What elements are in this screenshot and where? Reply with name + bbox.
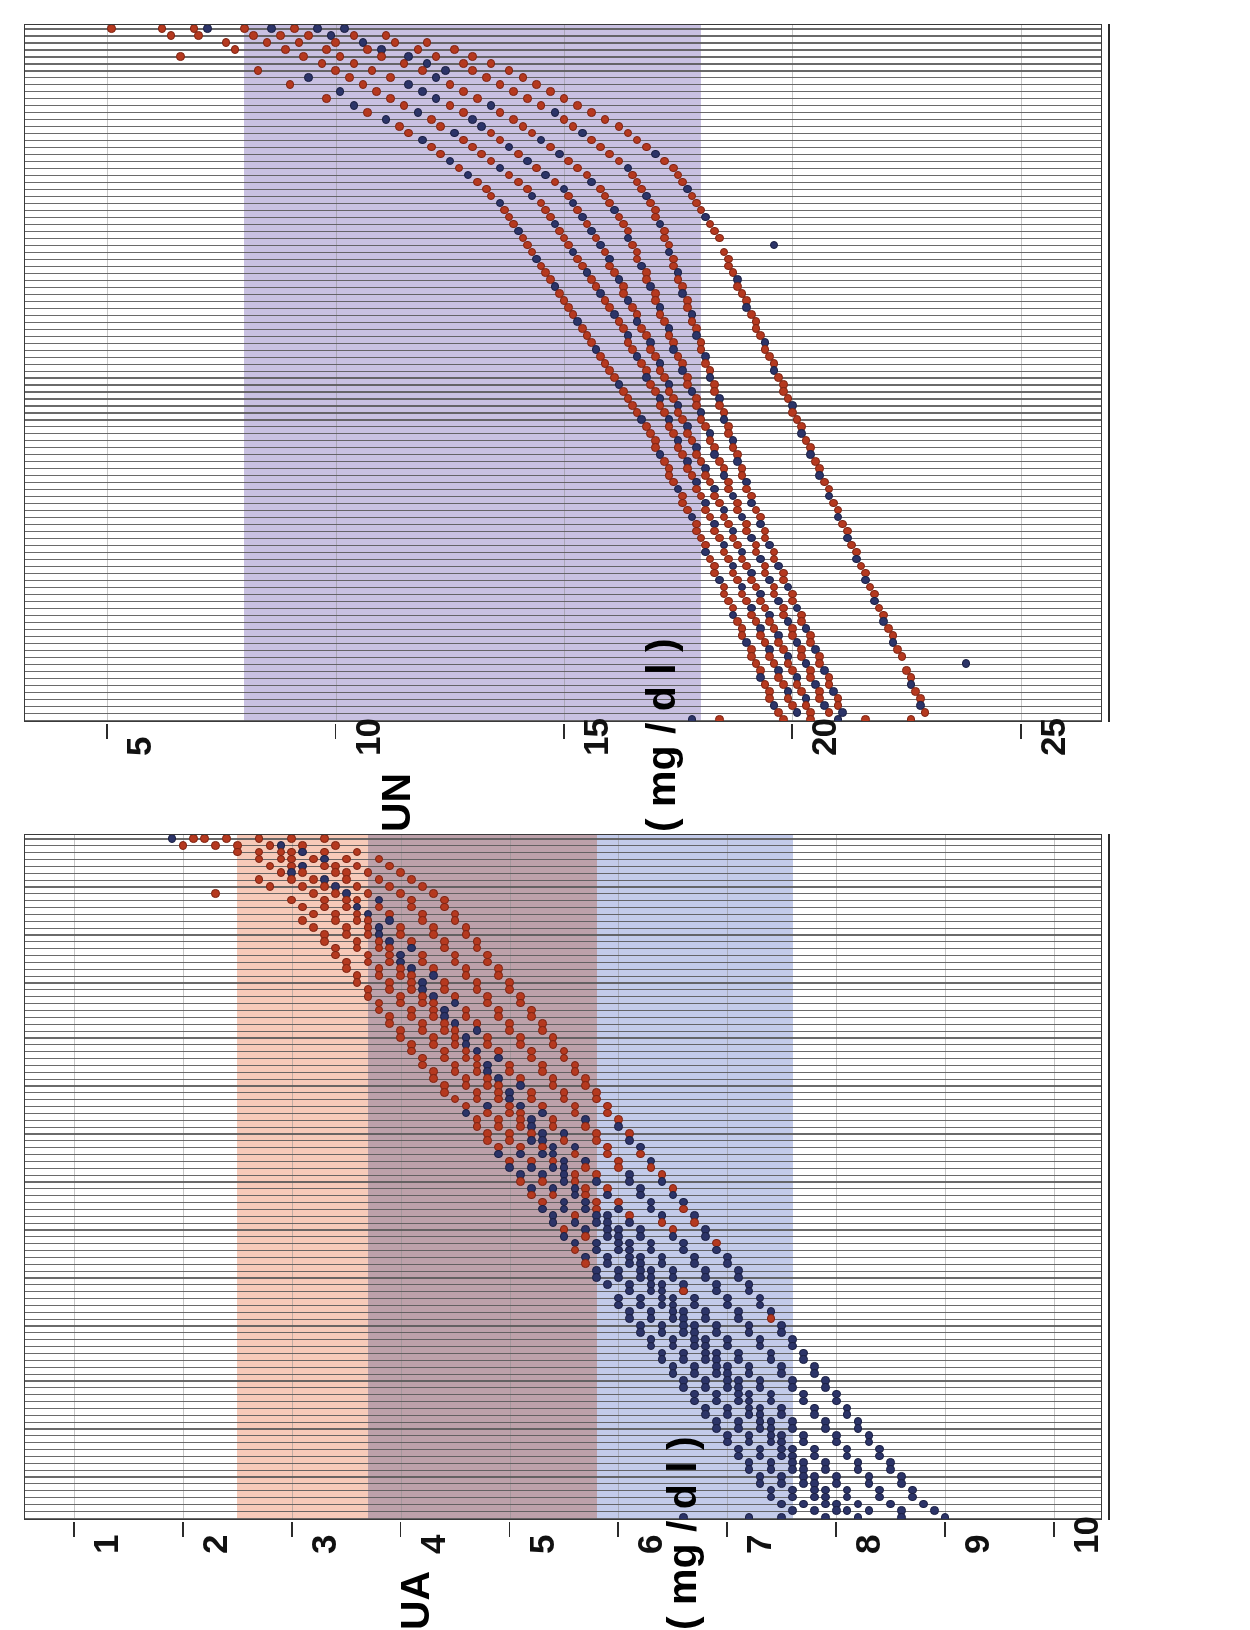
un-plot-frame: [24, 24, 1102, 722]
data-point: [331, 868, 340, 877]
data-point: [342, 930, 351, 939]
data-point: [477, 122, 486, 131]
data-point: [313, 24, 322, 33]
data-point: [359, 80, 368, 89]
ua-tick-label: 8: [848, 1536, 888, 1554]
data-point: [309, 923, 318, 932]
data-point: [462, 1054, 471, 1063]
data-point: [483, 1040, 492, 1049]
data-point: [322, 94, 331, 103]
data-point: [669, 1369, 678, 1378]
data-point: [429, 1074, 438, 1083]
data-point: [723, 1438, 732, 1447]
data-point: [345, 73, 354, 82]
data-point: [304, 31, 313, 40]
data-point: [432, 94, 441, 103]
data-point: [418, 87, 427, 96]
data-point: [854, 1465, 863, 1474]
data-point: [843, 1506, 852, 1515]
data-point: [462, 1081, 471, 1090]
data-point: [342, 875, 351, 884]
data-point: [407, 1012, 416, 1021]
data-point: [459, 87, 468, 96]
data-point: [701, 1273, 710, 1282]
data-point: [375, 944, 384, 953]
data-point: [176, 52, 185, 61]
data-point: [592, 1177, 601, 1186]
data-point: [527, 1095, 536, 1104]
data-point: [473, 1067, 482, 1076]
data-point: [799, 1479, 808, 1488]
data-point: [353, 848, 362, 857]
data-point: [528, 129, 537, 138]
data-point: [779, 715, 788, 722]
data-point: [799, 1397, 808, 1406]
data-point: [519, 73, 528, 82]
data-point: [523, 157, 532, 166]
data-point: [505, 143, 514, 152]
data-point: [255, 875, 264, 884]
data-point: [483, 1081, 492, 1090]
data-point: [734, 1355, 743, 1364]
data-point: [633, 136, 642, 145]
ua-tick-label: 5: [522, 1536, 562, 1554]
data-point: [810, 1369, 819, 1378]
data-point: [723, 1410, 732, 1419]
data-point: [396, 1033, 405, 1042]
data-point: [368, 66, 377, 75]
ua-tick-label: 7: [739, 1536, 779, 1554]
data-point: [669, 1342, 678, 1351]
data-point: [647, 1342, 656, 1351]
data-point: [669, 1273, 678, 1282]
data-point: [538, 1026, 547, 1035]
data-point: [560, 115, 569, 124]
data-point: [908, 1493, 917, 1502]
data-point: [647, 1314, 656, 1323]
data-point: [298, 882, 307, 891]
data-point: [266, 841, 275, 850]
data-point: [592, 1095, 601, 1104]
data-point: [581, 1122, 590, 1131]
data-point: [519, 122, 528, 131]
data-point: [483, 999, 492, 1008]
data-point: [407, 875, 416, 884]
data-point: [658, 1218, 667, 1227]
data-point: [340, 24, 349, 33]
data-point: [614, 1205, 623, 1214]
data-point: [777, 1513, 786, 1520]
data-point: [527, 1163, 536, 1172]
data-point: [494, 1012, 503, 1021]
data-point: [372, 87, 381, 96]
data-point: [571, 1150, 580, 1159]
data-point: [331, 66, 340, 75]
un-axis-line: [1108, 24, 1110, 722]
data-point: [277, 855, 286, 864]
data-point: [581, 1259, 590, 1268]
data-point: [636, 1328, 645, 1337]
data-point: [734, 1452, 743, 1461]
data-point: [487, 129, 496, 138]
data-point: [660, 157, 669, 166]
data-point: [555, 150, 564, 159]
data-point: [679, 1328, 688, 1337]
data-point: [865, 1438, 874, 1447]
data-point: [353, 978, 362, 987]
data-point: [651, 150, 660, 159]
data-point: [810, 1452, 819, 1461]
data-point: [483, 1109, 492, 1118]
data-point: [342, 903, 351, 912]
data-point: [701, 1410, 710, 1419]
data-point: [446, 101, 455, 110]
data-point: [400, 59, 409, 68]
data-point: [423, 38, 432, 47]
data-point: [404, 80, 413, 89]
data-point: [897, 1479, 906, 1488]
data-point: [715, 715, 724, 722]
data-point: [603, 1259, 612, 1268]
data-point: [658, 1301, 667, 1310]
data-point: [756, 1479, 765, 1488]
ua-axis-line: [1108, 834, 1110, 1520]
data-point: [806, 715, 815, 722]
data-point: [549, 1163, 558, 1172]
data-point: [455, 164, 464, 173]
